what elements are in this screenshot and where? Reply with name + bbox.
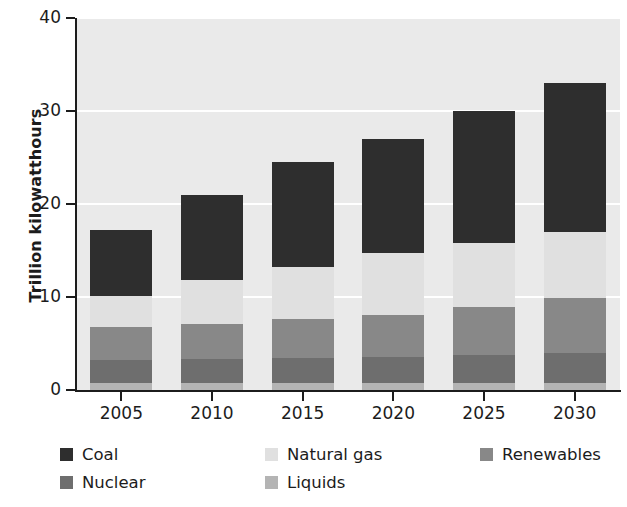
- legend-label: Coal: [82, 445, 118, 464]
- x-axis-label-2020: 2020: [348, 403, 438, 423]
- gridline: [76, 203, 620, 205]
- y-axis-line: [75, 18, 77, 392]
- bar-segment-liquids: [362, 383, 424, 390]
- bar-segment-natural-gas: [90, 296, 152, 327]
- x-axis-tick: [302, 392, 304, 401]
- x-axis-line: [75, 390, 621, 392]
- x-axis-tick: [211, 392, 213, 401]
- legend-item-liquids[interactable]: Liquids: [265, 473, 480, 492]
- bar-2015: [272, 162, 334, 390]
- bar-segment-nuclear: [453, 355, 515, 383]
- legend-item-nuclear[interactable]: Nuclear: [60, 473, 265, 492]
- plot-area: [76, 18, 620, 390]
- x-axis-tick: [574, 392, 576, 401]
- bar-2030: [544, 83, 606, 390]
- y-axis-tick: [66, 389, 75, 391]
- legend-label: Renewables: [502, 445, 601, 464]
- bar-segment-coal: [544, 83, 606, 232]
- y-axis-label: 10: [19, 286, 61, 306]
- legend-swatch-icon: [480, 448, 493, 461]
- y-axis-tick: [66, 296, 75, 298]
- x-axis-label-2030: 2030: [530, 403, 620, 423]
- bar-segment-liquids: [90, 383, 152, 390]
- y-axis-label: 30: [19, 100, 61, 120]
- bar-segment-nuclear: [362, 357, 424, 383]
- y-axis-tick: [66, 17, 75, 19]
- bar-segment-renewables: [453, 307, 515, 354]
- bar-segment-liquids: [181, 383, 243, 390]
- bar-2025: [453, 111, 515, 390]
- bar-segment-liquids: [272, 383, 334, 390]
- legend-item-coal[interactable]: Coal: [60, 445, 265, 464]
- bar-segment-natural-gas: [272, 267, 334, 319]
- gridline: [76, 17, 620, 19]
- legend-label: Natural gas: [287, 445, 382, 464]
- bar-segment-nuclear: [272, 358, 334, 382]
- bar-segment-renewables: [181, 324, 243, 359]
- bar-segment-renewables: [544, 298, 606, 353]
- bar-segment-liquids: [544, 383, 606, 390]
- legend-label: Liquids: [287, 473, 345, 492]
- legend-item-natural-gas[interactable]: Natural gas: [265, 445, 480, 464]
- bar-2020: [362, 139, 424, 390]
- bar-segment-coal: [181, 195, 243, 281]
- legend: CoalNatural gasRenewablesNuclearLiquids: [60, 440, 620, 496]
- legend-swatch-icon: [265, 448, 278, 461]
- x-axis-label-2015: 2015: [258, 403, 348, 423]
- bar-segment-natural-gas: [181, 280, 243, 324]
- y-axis-label: 0: [19, 379, 61, 399]
- y-axis-tick: [66, 203, 75, 205]
- x-axis-label-2025: 2025: [439, 403, 529, 423]
- gridline: [76, 296, 620, 298]
- x-axis-tick: [120, 392, 122, 401]
- legend-item-renewables[interactable]: Renewables: [480, 445, 627, 464]
- legend-swatch-icon: [265, 476, 278, 489]
- x-axis-label-2010: 2010: [167, 403, 257, 423]
- legend-swatch-icon: [60, 448, 73, 461]
- bar-segment-nuclear: [90, 360, 152, 382]
- bar-segment-coal: [272, 162, 334, 267]
- legend-swatch-icon: [60, 476, 73, 489]
- legend-label: Nuclear: [82, 473, 146, 492]
- bar-segment-renewables: [272, 319, 334, 358]
- y-axis-label: 40: [19, 7, 61, 27]
- x-axis-tick: [483, 392, 485, 401]
- x-axis-tick: [392, 392, 394, 401]
- y-axis-label: 20: [19, 193, 61, 213]
- bar-segment-nuclear: [544, 353, 606, 383]
- bar-2005: [90, 230, 152, 390]
- bar-segment-nuclear: [181, 359, 243, 382]
- bar-segment-coal: [453, 111, 515, 243]
- bar-segment-liquids: [453, 383, 515, 390]
- x-axis-label-2005: 2005: [76, 403, 166, 423]
- y-axis-tick: [66, 110, 75, 112]
- stacked-bar-chart: Trillion kilowatthours 010203040 2005201…: [0, 0, 627, 507]
- bar-segment-renewables: [362, 315, 424, 357]
- gridline: [76, 110, 620, 112]
- bar-segment-natural-gas: [453, 243, 515, 307]
- bar-segment-coal: [362, 139, 424, 253]
- bar-segment-renewables: [90, 327, 152, 360]
- bar-segment-natural-gas: [362, 253, 424, 314]
- bar-segment-coal: [90, 230, 152, 296]
- bar-2010: [181, 195, 243, 390]
- bar-segment-natural-gas: [544, 232, 606, 298]
